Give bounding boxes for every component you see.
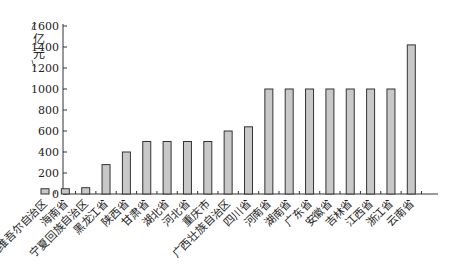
y-tick-label: 1600 (31, 20, 59, 33)
bar (183, 142, 191, 195)
bar (163, 142, 171, 195)
y-tick-label: 200 (38, 167, 59, 180)
y-tick-label: 1200 (31, 62, 59, 75)
y-tick-label: 400 (38, 146, 59, 159)
x-axis-labels: 新疆维吾尔自治区海南省宁夏回族自治区黑龙江省陕西省甘肃省湖北省河北省重庆市广西壮… (0, 196, 416, 268)
bar (265, 89, 273, 194)
y-tick-label: 1000 (31, 83, 59, 96)
bar (82, 188, 90, 194)
bar (285, 89, 293, 194)
bar (407, 45, 415, 194)
bar (306, 89, 314, 194)
y-tick-label: 600 (38, 125, 59, 138)
bar (122, 152, 130, 194)
bar (61, 189, 69, 194)
bars (41, 45, 421, 194)
bar (224, 131, 232, 194)
bar (102, 165, 110, 194)
x-tick-label: 新疆维吾尔自治区 (0, 196, 50, 268)
bar-chart: 亿元 02004006008001000120014001600 新疆维吾尔自治… (0, 0, 469, 277)
y-tick-label: 800 (38, 104, 59, 117)
bar (245, 127, 253, 194)
bar (367, 89, 375, 194)
bar (387, 89, 395, 194)
bar (41, 189, 49, 194)
bar (143, 142, 151, 195)
y-tick-label: 1400 (31, 41, 59, 54)
bar (346, 89, 354, 194)
y-axis: 02004006008001000120014001600 (31, 20, 438, 201)
bar (326, 89, 334, 194)
bar (204, 142, 212, 195)
